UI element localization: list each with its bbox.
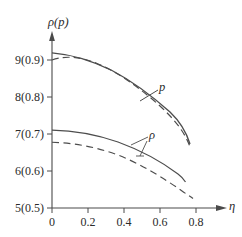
curve-rho-solid [52,130,186,182]
y-axis-arrowhead [49,31,55,41]
x-axis-arrowhead [216,205,227,211]
x-tick-marks [52,208,196,213]
y-tick-label-0.5: 5(0.5) [0,202,44,214]
curve-label-p: p [159,81,165,94]
curve-rho-dashed [52,142,193,198]
curve-label-rho: ρ [149,129,155,142]
x-tick-label-0.6: 0.6 [146,216,174,228]
leader-lines-rho [131,137,148,156]
x-tick-label-0.2: 0.2 [74,216,102,228]
y-tick-label-0.6: 6(0.6) [0,165,44,177]
y-tick-label-0.7: 7(0.7) [0,128,44,140]
y-tick-marks [47,60,52,208]
curve-p-solid [52,53,190,144]
curve-p-dashed [52,57,190,145]
figure-container: ρ(p) η 9(0.9) 8(0.8) 7(0.7) 6(0.6) 5(0.5… [0,0,242,237]
x-axis-label: η [229,200,235,213]
x-tick-label-0.4: 0.4 [110,216,138,228]
x-tick-label-0.8: 0.8 [182,216,210,228]
y-tick-label-0.9: 9(0.9) [0,54,44,66]
y-tick-label-0.8: 8(0.8) [0,91,44,103]
axis-lines [52,40,218,208]
y-axis-label: ρ(p) [48,16,69,29]
x-tick-label-0: 0 [38,216,66,228]
